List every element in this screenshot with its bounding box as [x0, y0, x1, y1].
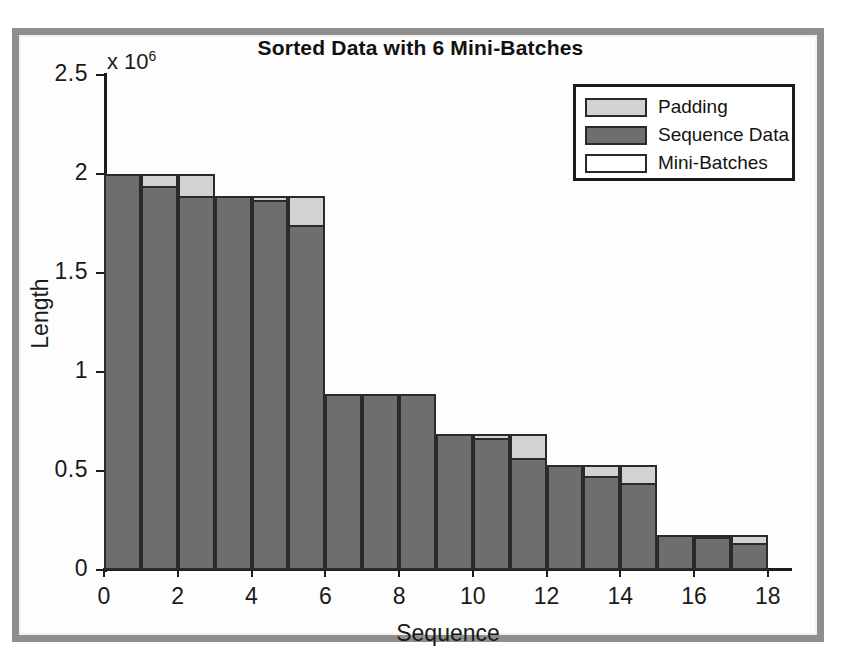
legend-swatch-mini-batches — [585, 154, 647, 173]
bar-sequence-data-segment — [620, 483, 657, 570]
x-tick-label: 10 — [443, 583, 503, 610]
y-tick-label: 1 — [8, 357, 88, 384]
legend-swatch-sequence-data — [585, 126, 647, 145]
bar-sequence-data-segment — [362, 394, 399, 570]
bar-sequence-data-segment — [547, 465, 584, 570]
bar-sequence-data-segment — [510, 458, 547, 570]
legend-item-sequence-data: Sequence Data — [576, 121, 792, 149]
chart-screenshot: Sorted Data with 6 Mini-Batches x 106 Le… — [0, 0, 841, 670]
x-tick-label: 6 — [295, 583, 355, 610]
y-tick-label: 1.5 — [8, 258, 88, 285]
x-axis-label: Sequence — [104, 620, 792, 647]
bar-sequence-data-segment — [657, 535, 694, 570]
x-tick-label: 0 — [74, 583, 134, 610]
bar-sequence-data-segment — [731, 543, 768, 570]
y-tick-label: 0.5 — [8, 456, 88, 483]
bar-sequence-data-segment — [178, 196, 215, 570]
bar-sequence-data-segment — [473, 438, 510, 570]
y-axis-exponent-power: 6 — [149, 48, 157, 64]
y-axis-exponent-base: x 10 — [107, 49, 149, 74]
legend-item-mini-batches: Mini-Batches — [576, 149, 792, 177]
legend-label-mini-batches: Mini-Batches — [658, 152, 768, 174]
bar-sequence-data-segment — [583, 476, 620, 570]
x-tick-label: 18 — [738, 583, 798, 610]
bar-sequence-data-segment — [252, 200, 289, 570]
legend-item-padding: Padding — [576, 93, 792, 121]
legend-swatch-padding — [585, 98, 647, 117]
x-tick-label: 12 — [517, 583, 577, 610]
x-tick-label: 8 — [369, 583, 429, 610]
x-tick-label: 2 — [148, 583, 208, 610]
chart-legend: Padding Sequence Data Mini-Batches — [573, 84, 795, 181]
y-tick-mark — [96, 74, 106, 76]
bar-sequence-data-segment — [436, 434, 473, 570]
bar-sequence-data-segment — [215, 196, 252, 570]
x-tick-label: 4 — [222, 583, 282, 610]
y-tick-label: 0 — [8, 555, 88, 582]
x-tick-label: 14 — [590, 583, 650, 610]
bar-sequence-data-segment — [694, 537, 731, 570]
bar-sequence-data-segment — [399, 394, 436, 570]
bar-sequence-data-segment — [288, 225, 325, 570]
bar-sequence-data-segment — [325, 394, 362, 570]
x-tick-label: 16 — [664, 583, 724, 610]
y-axis-exponent-label: x 106 — [107, 48, 156, 75]
bar-sequence-data-segment — [104, 174, 141, 570]
legend-label-padding: Padding — [658, 96, 728, 118]
legend-label-sequence-data: Sequence Data — [658, 124, 789, 146]
y-tick-label: 2.5 — [8, 60, 88, 87]
y-tick-label: 2 — [8, 159, 88, 186]
bar-sequence-data-segment — [141, 186, 178, 570]
